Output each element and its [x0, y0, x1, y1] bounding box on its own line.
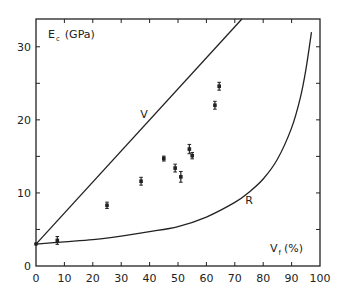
curve-labels: VR [140, 108, 253, 207]
plot-frame [36, 19, 320, 266]
data-points [56, 82, 221, 244]
curve-label-r: R [245, 194, 253, 207]
data-point [162, 156, 166, 161]
curve-r [36, 32, 311, 244]
x-tick-label: 80 [256, 272, 270, 285]
x-tick-label: 40 [143, 272, 157, 285]
y-axis-title: Ec(GPa) [48, 28, 95, 43]
curve-v [36, 19, 242, 244]
data-point [173, 164, 177, 172]
y-tick-label: 20 [17, 114, 31, 127]
x-tick-label: 60 [199, 272, 213, 285]
chart: 0102030405060708090100 0102030 VR Ec(GPa… [0, 0, 344, 297]
y-axis-ticks: 0102030 [17, 41, 320, 273]
x-tick-label: 100 [310, 272, 331, 285]
data-point [139, 177, 143, 185]
data-point [213, 101, 217, 109]
y-tick-label: 0 [24, 260, 31, 273]
curve-label-v: V [140, 108, 148, 121]
x-tick-label: 0 [33, 272, 40, 285]
x-tick-label: 50 [171, 272, 185, 285]
x-axis-title: Vf(%) [270, 242, 303, 257]
data-point [217, 82, 221, 90]
x-tick-label: 10 [57, 272, 71, 285]
data-point [179, 171, 183, 182]
x-tick-label: 90 [285, 272, 299, 285]
plot-border [36, 19, 320, 266]
x-tick-label: 20 [86, 272, 100, 285]
data-point [105, 202, 109, 208]
model-curves [34, 19, 311, 246]
x-tick-label: 70 [228, 272, 242, 285]
y-tick-label: 10 [17, 187, 31, 200]
x-tick-label: 30 [114, 272, 128, 285]
y-tick-label: 30 [17, 41, 31, 54]
